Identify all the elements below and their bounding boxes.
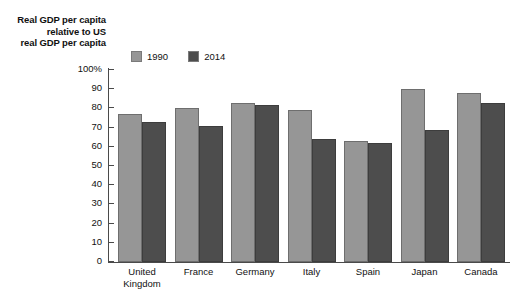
y-tick: 70: [108, 127, 114, 128]
y-tick-mark: [109, 165, 114, 166]
plot-area: 0102030405060708090100% United KingdomFr…: [108, 70, 510, 262]
bar-group: [457, 70, 505, 262]
y-tick-mark: [109, 261, 114, 262]
y-tick-mark: [109, 203, 114, 204]
legend-item-2014: 2014: [188, 51, 225, 62]
y-tick-label: 0: [97, 255, 102, 266]
bar-group: [231, 70, 279, 262]
y-axis-title: Real GDP per capita relative to US real …: [0, 14, 106, 49]
y-tick: 10: [108, 242, 114, 243]
y-tick-mark: [109, 146, 114, 147]
y-tick: 20: [108, 223, 114, 224]
bar-1990: [457, 93, 481, 262]
chart-legend: 1990 2014: [131, 51, 225, 62]
bar-group: [175, 70, 223, 262]
bar-group: [344, 70, 392, 262]
legend-label-2014: 2014: [204, 51, 225, 62]
bar-group: [288, 70, 336, 262]
y-tick-label: 20: [91, 217, 102, 228]
legend-swatch-1990: [131, 51, 142, 62]
legend-swatch-2014: [188, 51, 199, 62]
bar-1990: [344, 141, 368, 262]
bar-group: [118, 70, 166, 262]
legend-label-1990: 1990: [147, 51, 168, 62]
y-tick: 90: [108, 88, 114, 89]
bar-2014: [425, 130, 449, 262]
y-tick: 60: [108, 146, 114, 147]
y-tick: 80: [108, 107, 114, 108]
y-tick: 0: [108, 261, 114, 262]
y-tick-label: 70: [91, 121, 102, 132]
x-axis-line: [108, 262, 510, 263]
y-tick-label: 30: [91, 197, 102, 208]
bar-2014: [142, 122, 166, 262]
y-tick: 40: [108, 184, 114, 185]
y-tick: 50: [108, 165, 114, 166]
bar-group: [401, 70, 449, 262]
y-tick-label: 80: [91, 101, 102, 112]
bar-2014: [368, 143, 392, 262]
bar-1990: [175, 108, 199, 262]
bar-1990: [401, 89, 425, 262]
y-tick-mark: [109, 127, 114, 128]
y-tick-label: 100%: [78, 63, 102, 74]
y-tick-label: 90: [91, 82, 102, 93]
bar-2014: [199, 126, 223, 262]
y-tick-mark: [109, 242, 114, 243]
bar-2014: [312, 139, 336, 262]
y-tick-label: 10: [91, 236, 102, 247]
y-tick-label: 60: [91, 140, 102, 151]
bar-1990: [231, 103, 255, 262]
y-tick: 30: [108, 203, 114, 204]
y-tick-mark: [109, 223, 114, 224]
bar-2014: [481, 103, 505, 262]
bar-chart: Real GDP per capita relative to US real …: [0, 0, 531, 302]
y-tick-label: 50: [91, 159, 102, 170]
x-axis-label: Canada: [436, 266, 526, 278]
y-tick-mark: [109, 107, 114, 108]
y-tick-mark: [109, 69, 114, 70]
bar-2014: [255, 105, 279, 262]
legend-item-1990: 1990: [131, 51, 168, 62]
y-tick-label: 40: [91, 178, 102, 189]
y-tick-mark: [109, 184, 114, 185]
bar-1990: [118, 114, 142, 262]
y-tick-mark: [109, 88, 114, 89]
bar-1990: [288, 110, 312, 262]
y-tick: 100%: [108, 69, 114, 70]
